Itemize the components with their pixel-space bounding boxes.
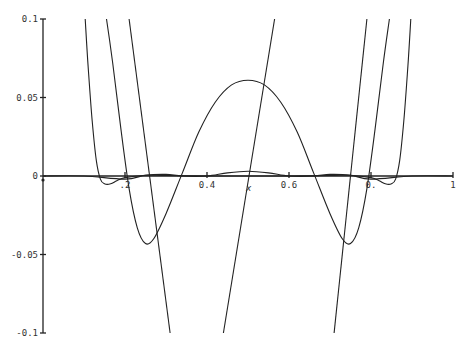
- series-w-shaped: [85, 19, 411, 184]
- x-axis-label: x: [245, 183, 252, 193]
- y-tick-label: 0: [33, 171, 38, 181]
- x-tick-label: 1: [450, 180, 455, 190]
- x-tick-label: 0.: [366, 180, 377, 190]
- y-tick-label: 0.05: [16, 93, 38, 103]
- line-chart: 0.10.050-0.05-0.1.20.40.60.1 x: [0, 0, 465, 349]
- y-tick-label: -0.1: [16, 328, 38, 338]
- origin-marker: [41, 178, 44, 181]
- y-tick-label: -0.05: [11, 250, 38, 260]
- x-tick-label: 0.6: [281, 180, 297, 190]
- x-tick-label: .2: [120, 180, 131, 190]
- x-tick-label: 0.4: [199, 180, 215, 190]
- axes: [43, 19, 453, 333]
- y-tick-label: 0.1: [22, 14, 38, 24]
- series-small-oscillation: [43, 171, 453, 179]
